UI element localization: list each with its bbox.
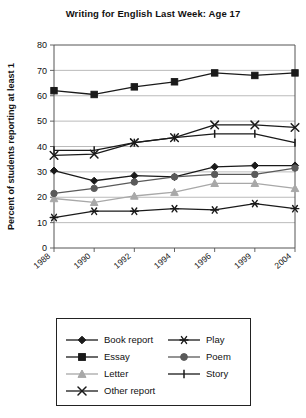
y-axis-tick-label: 60 bbox=[37, 91, 47, 101]
y-axis-tick-label: 70 bbox=[37, 66, 47, 76]
triangle-marker-icon bbox=[65, 368, 99, 380]
line-chart-svg: 0102030405060708019881990199219941996199… bbox=[0, 0, 306, 300]
y-axis-tick-label: 10 bbox=[37, 218, 47, 228]
legend-label: Play bbox=[206, 335, 224, 345]
legend-label: Other report bbox=[104, 386, 155, 396]
plot-area: 0102030405060708019881990199219941996199… bbox=[0, 0, 306, 300]
square-marker-icon bbox=[65, 351, 99, 363]
y-axis-tick-label: 30 bbox=[37, 167, 47, 177]
y-axis-tick-label: 50 bbox=[37, 116, 47, 126]
legend-item-book-report[interactable]: Book report bbox=[65, 331, 153, 348]
series-letter bbox=[50, 179, 299, 205]
legend-item-essay[interactable]: Essay bbox=[65, 348, 130, 365]
legend-item-letter[interactable]: Letter bbox=[65, 365, 128, 382]
x-axis-tick-label: 1996 bbox=[192, 251, 213, 271]
legend-item-story[interactable]: Story bbox=[167, 365, 228, 382]
legend-label: Book report bbox=[104, 335, 153, 345]
y-axis-tick-label: 20 bbox=[37, 192, 47, 202]
x-axis-tick-label: 1990 bbox=[72, 251, 93, 271]
chart-legend: Book reportEssayLetterOther reportPlayPo… bbox=[56, 318, 251, 406]
y-axis-tick-label: 40 bbox=[37, 142, 47, 152]
chart-page: Writing for English Last Week: Age 17 01… bbox=[0, 0, 306, 418]
x-axis-tick-label: 1999 bbox=[232, 251, 253, 271]
legend-label: Poem bbox=[206, 352, 231, 362]
x-axis-tick-label: 2004 bbox=[272, 251, 293, 271]
circle-marker-icon bbox=[167, 351, 201, 363]
series-story bbox=[54, 130, 295, 154]
y-axis-tick-label: 80 bbox=[37, 40, 47, 50]
legend-label: Story bbox=[206, 369, 228, 379]
series-essay bbox=[51, 70, 298, 98]
legend-label: Letter bbox=[104, 369, 128, 379]
x-axis-tick-label: 1994 bbox=[152, 251, 173, 271]
legend-item-other-report[interactable]: Other report bbox=[65, 382, 155, 399]
asterisk-marker-icon bbox=[167, 334, 201, 346]
x-marker-icon bbox=[65, 385, 99, 397]
bar-marker-icon bbox=[167, 368, 201, 380]
legend-item-play[interactable]: Play bbox=[167, 331, 224, 348]
legend-item-poem[interactable]: Poem bbox=[167, 348, 231, 365]
y-axis-title: Percent of students reporting at least 1 bbox=[6, 63, 16, 230]
x-axis-tick-label: 1988 bbox=[31, 251, 52, 271]
legend-items: Book reportEssayLetterOther reportPlayPo… bbox=[57, 325, 250, 405]
diamond-marker-icon bbox=[65, 334, 99, 346]
legend-label: Essay bbox=[104, 352, 130, 362]
series-play bbox=[50, 200, 299, 220]
x-axis-tick-label: 1992 bbox=[112, 251, 133, 271]
